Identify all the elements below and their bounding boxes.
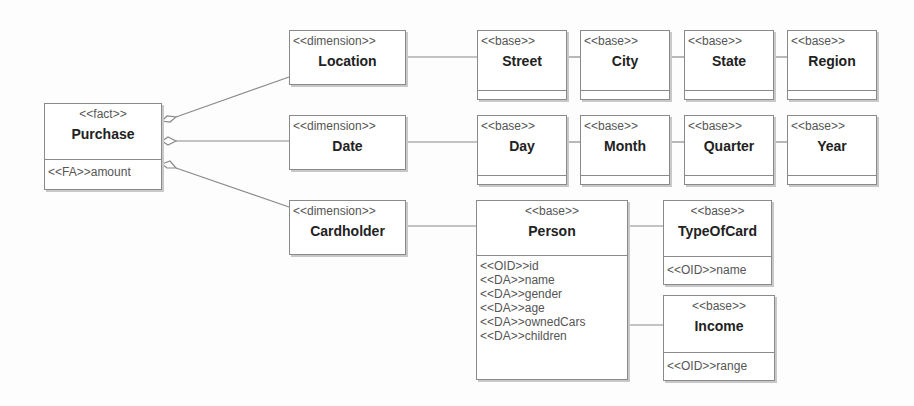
attribute: <<DA>>age [480,301,624,315]
attribute: <<FA>>amount [48,165,158,179]
aggregation-diamond-icon [162,137,176,145]
base-city-box[interactable]: <<base>> City [580,30,670,100]
attribute: <<OID>>name [667,263,768,277]
stereotype-label: <<base>> [685,119,742,133]
base-person-box[interactable]: <<base>> Person <<OID>>id <<DA>>name <<D… [476,200,628,380]
attribute: <<OID>>id [480,259,624,273]
fact-purchase-box[interactable]: <<fact>> Purchase <<FA>>amount [44,103,162,190]
stereotype-label: <<base>> [581,119,638,133]
class-name: Purchase [71,124,134,144]
aggregation-diamond-icon [162,116,176,122]
class-name: Month [604,136,646,156]
base-income-box[interactable]: <<base>> Income <<OID>>range [663,295,775,381]
empty-attributes [685,90,773,99]
class-name: Location [318,51,376,71]
stereotype-label: <<base>> [525,204,579,218]
base-region-box[interactable]: <<base>> Region [787,30,877,100]
aggregation-diamond-icon [162,161,176,168]
base-quarter-box[interactable]: <<base>> Quarter [684,115,774,185]
base-state-box[interactable]: <<base>> State [684,30,774,100]
class-name: Quarter [704,136,755,156]
base-day-box[interactable]: <<base>> Day [477,115,567,185]
empty-attributes [478,175,566,184]
class-name: State [712,51,746,71]
class-name: Day [509,136,535,156]
attribute: <<DA>>gender [480,287,624,301]
class-name: Region [808,51,855,71]
attribute: <<DA>>ownedCars [480,315,624,329]
class-name: Street [502,51,542,71]
attribute: <<DA>>children [480,329,624,343]
empty-attributes [581,175,669,184]
base-year-box[interactable]: <<base>> Year [787,115,877,185]
stereotype-label: <<base>> [478,119,535,133]
attribute: <<DA>>name [480,273,624,287]
dimension-location-box[interactable]: <<dimension>> Location [289,30,406,85]
stereotype-label: <<dimension>> [290,204,376,218]
stereotype-label: <<fact>> [79,107,126,121]
class-name: Person [528,221,575,241]
stereotype-label: <<dimension>> [290,34,376,48]
stereotype-label: <<dimension>> [290,119,376,133]
class-name: Cardholder [310,221,385,241]
class-name: TypeOfCard [678,221,757,241]
stereotype-label: <<base>> [788,119,845,133]
base-typeofcard-box[interactable]: <<base>> TypeOfCard <<OID>>name [663,200,772,285]
stereotype-label: <<base>> [692,299,746,313]
attribute: <<OID>>range [667,359,771,373]
stereotype-label: <<base>> [788,34,845,48]
class-name: Year [817,136,847,156]
class-name: Income [694,316,743,336]
dimension-date-box[interactable]: <<dimension>> Date [289,115,406,170]
stereotype-label: <<base>> [690,204,744,218]
dimension-cardholder-box[interactable]: <<dimension>> Cardholder [289,200,406,255]
stereotype-label: <<base>> [581,34,638,48]
link-purchase-location [176,77,289,117]
stereotype-label: <<base>> [478,34,535,48]
base-street-box[interactable]: <<base>> Street [477,30,567,100]
class-name: Date [332,136,362,156]
empty-attributes [788,175,876,184]
stereotype-label: <<base>> [685,34,742,48]
link-purchase-cardholder [176,168,289,207]
empty-attributes [581,90,669,99]
base-month-box[interactable]: <<base>> Month [580,115,670,185]
empty-attributes [788,90,876,99]
association-lines [0,0,914,406]
class-name: City [612,51,638,71]
empty-attributes [685,175,773,184]
empty-attributes [478,90,566,99]
